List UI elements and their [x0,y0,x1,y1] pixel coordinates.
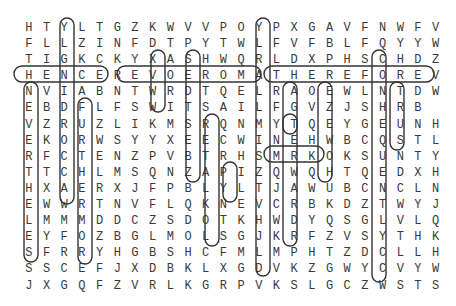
grid-letter: F [91,278,109,294]
grid-letter: W [374,278,392,294]
letter-grid: HTYLTGZKWVVPOYPXGAVFNWFVFLLZINFDTPYTWLFV… [20,18,445,292]
grid-letter: Q [73,278,91,294]
grid-letter: R [144,278,162,294]
grid-letter: S [427,278,445,294]
grid-row: NVIABNTWRDTQELRAOEWLNTDW [20,82,445,98]
grid-letter: Z [108,278,126,294]
grid-letter: V [250,278,268,294]
grid-letter: T [409,278,427,294]
grid-letter: K [268,278,286,294]
grid-row: JXGQFZVRLKGRPVKSLGCZWSTS [20,276,445,292]
grid-letter: P [232,278,250,294]
grid-letter: V [126,278,144,294]
grid-row: HTYLTGZKWVVPOYPXGAVFNWFV [20,18,445,34]
grid-row: SFRRYHGBSHCFMLMPHTZDCLLH [20,243,445,259]
grid-row: EWWRTNVFLQKNEVCRBKDZTWYJ [20,195,445,211]
grid-letter: Z [356,278,374,294]
grid-letter: S [285,278,303,294]
grid-letter: G [321,278,339,294]
grid-letter: G [197,278,215,294]
grid-letter: X [38,278,56,294]
grid-row: SSCEFJXDBKLXGDVKZGWYCVYW [20,259,445,275]
grid-letter: L [162,278,180,294]
grid-row: TTCHLMSQNZAPIZQWQHTQEDXH [20,163,445,179]
word-search-puzzle: HTYLTGZKWVVPOYPXGAVFNWFVFLLZINFDTPYTWLFV… [0,0,456,306]
grid-letter: S [391,278,409,294]
grid-letter: J [20,278,38,294]
grid-letter: C [338,278,356,294]
grid-row: EYFOZBGLMOLSGJKRFZVSYTHK [20,227,445,243]
grid-letter: L [303,278,321,294]
grid-letter: G [55,278,73,294]
grid-row: EKORWSYYXEECWINEHWBCQSTL [20,131,445,147]
grid-row: VZRUZLIKMSRQNMYTQEYGEUNH [20,115,445,131]
grid-letter: W [427,84,445,100]
grid-row: FLLZINFDTPYTWLFVFBLFQYYW [20,34,445,50]
grid-letter: R [215,278,233,294]
grid-letter: K [179,278,197,294]
grid-row: TIGKCKYXASHWQRLDXPHSCHDZ [20,50,445,66]
grid-row: LMMMDDCZSDOTKHWDYQSGLVLQ [20,211,445,227]
grid-row: HXAERXJFPBLYLTJAWUBCNCLN [20,179,445,195]
grid-row: RFCTENZPVBTRHSMRKOKSUNTY [20,147,445,163]
grid-row: EBDFLFSWITSAILFGVZJSHRB [20,98,445,114]
grid-row: HENCEREVOEROMATHEREFOREV [20,66,445,82]
